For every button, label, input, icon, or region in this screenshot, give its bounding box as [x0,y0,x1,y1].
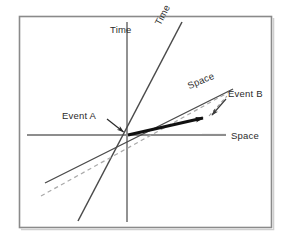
diagram-canvas [0,0,292,245]
space-axis-label: Space [231,130,259,141]
figure-border [20,17,272,228]
time-axis-label: Time [110,24,132,35]
event-b-label: Event B [228,88,263,99]
spacetime-diagram-figure: Time Time Space Space Event A Event B [0,0,292,245]
event-a-label: Event A [62,110,96,121]
